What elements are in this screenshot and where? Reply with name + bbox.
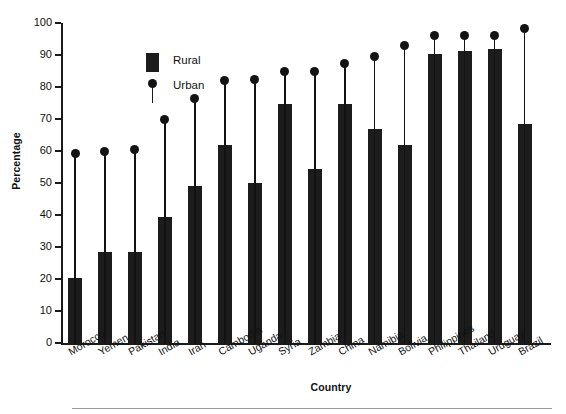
y-tick-label: 100 (6, 16, 52, 28)
y-axis-line (61, 23, 63, 344)
plot-area: 0102030405060708090100 MoroccoYemenPakis… (61, 23, 551, 344)
urban-stem (134, 150, 136, 344)
y-tick-label: 60 (6, 144, 52, 156)
urban-dot (310, 67, 319, 76)
y-tick-mark (55, 118, 61, 120)
y-tick-mark (55, 310, 61, 312)
urban-stem (374, 57, 376, 344)
urban-dot (100, 147, 109, 156)
chart-legend: Rural Urban (141, 52, 271, 104)
urban-stem (494, 36, 496, 344)
urban-dot (340, 59, 349, 68)
y-tick-mark (55, 342, 61, 344)
y-tick-label: 0 (6, 336, 52, 348)
y-tick-mark (55, 22, 61, 24)
y-axis-title: Percentage (10, 116, 22, 206)
urban-stem (104, 153, 106, 344)
y-tick-mark (55, 86, 61, 88)
urban-dot (430, 31, 439, 40)
y-tick-label: 80 (6, 80, 52, 92)
x-axis-title-text: Country (311, 381, 352, 393)
urban-stem (284, 73, 286, 344)
urban-dot (71, 149, 80, 158)
y-tick-mark (55, 278, 61, 280)
urban-dot (460, 31, 469, 40)
x-axis-title: Country (0, 381, 566, 393)
urban-dot (400, 41, 409, 50)
urban-stem (464, 37, 466, 344)
urban-stem (254, 80, 256, 344)
urban-dot (160, 115, 169, 124)
y-tick-label: 90 (6, 48, 52, 60)
urban-dot (130, 145, 139, 154)
urban-stem (224, 82, 226, 344)
urban-dot (280, 67, 289, 76)
footer-divider (72, 408, 552, 409)
urban-stem (314, 73, 316, 344)
urban-dot (490, 31, 499, 40)
y-tick-label: 70 (6, 112, 52, 124)
urban-stem (164, 120, 166, 344)
rural-swatch-icon (146, 53, 159, 72)
urban-dot (370, 52, 379, 61)
legend-label-rural: Rural (173, 54, 200, 66)
y-tick-label: 20 (6, 272, 52, 284)
y-tick-mark (55, 54, 61, 56)
urban-stem (194, 99, 196, 344)
urban-dot-icon (148, 79, 157, 88)
y-tick-mark (55, 246, 61, 248)
legend-label-urban: Urban (173, 79, 204, 91)
y-tick-label: 10 (6, 304, 52, 316)
urban-stem (344, 64, 346, 344)
y-tick-mark (55, 182, 61, 184)
urban-stem (524, 29, 526, 344)
y-tick-mark (55, 214, 61, 216)
y-tick-label: 50 (6, 176, 52, 188)
figure-canvas: Percentage 0102030405060708090100 Morocc… (0, 0, 566, 414)
y-tick-label: 30 (6, 240, 52, 252)
y-tick-mark (55, 150, 61, 152)
urban-stem (434, 37, 436, 344)
urban-stem (404, 46, 406, 344)
urban-dot (520, 24, 529, 33)
y-tick-label: 40 (6, 208, 52, 220)
urban-stem (74, 155, 76, 344)
